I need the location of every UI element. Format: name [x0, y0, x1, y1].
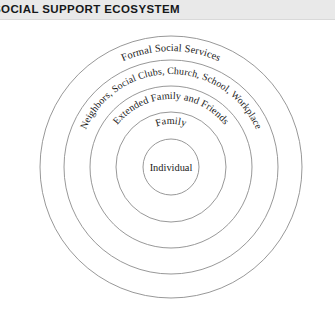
diagram-page: SOCIAL SUPPORT ECOSYSTEM Formal [0, 0, 335, 311]
header-band: SOCIAL SUPPORT ECOSYSTEM [0, 0, 335, 20]
ring-label-individual: Individual [150, 162, 193, 173]
ring-label-family-textpath: Family [154, 115, 189, 129]
page-title: SOCIAL SUPPORT ECOSYSTEM [0, 2, 180, 16]
ring-label-family: Family [154, 115, 189, 129]
social-support-ecosystem-diagram: Formal Social Services Neighbors, Social… [0, 20, 335, 311]
concentric-circles-graphic: Formal Social Services Neighbors, Social… [0, 20, 335, 311]
